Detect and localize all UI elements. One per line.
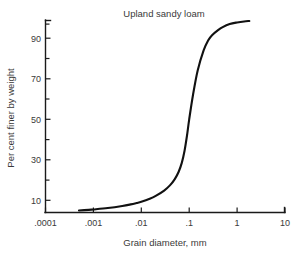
y-tick-label-30: 30 xyxy=(31,155,41,165)
x-tick-label-.001: .001 xyxy=(85,218,103,228)
chart-title: Upland sandy loam xyxy=(123,8,204,19)
x-tick-label-.1: .1 xyxy=(185,218,193,228)
x-tick-label-.0001: .0001 xyxy=(34,218,57,228)
y-tick-label-70: 70 xyxy=(31,74,41,84)
y-axis-label: Per cent finer by weight xyxy=(5,68,16,168)
y-tick-label-10: 10 xyxy=(31,196,41,206)
y-tick-label-90: 90 xyxy=(31,34,41,44)
chart-figure: Upland sandy loam 1030507090 .0001.001.0… xyxy=(0,0,304,253)
y-tick-label-50: 50 xyxy=(31,115,41,125)
x-tick-label-1: 1 xyxy=(235,218,240,228)
x-tick-label-.01: .01 xyxy=(135,218,148,228)
x-tick-label-10: 10 xyxy=(280,218,290,228)
x-axis-label: Grain diameter, mm xyxy=(123,237,206,248)
